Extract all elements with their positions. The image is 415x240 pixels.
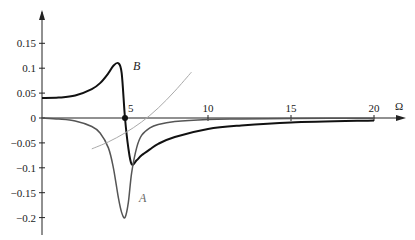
y-tick-label: −0.2 [16, 212, 36, 224]
axes: 0.150.10.050−0.05−0.1−0.15−0.25101520 [11, 10, 406, 235]
y-tick-label: 0.15 [17, 37, 37, 49]
series-a [42, 118, 374, 218]
y-tick-label: −0.15 [11, 187, 37, 199]
x-tick-label: 15 [286, 102, 298, 114]
x-axis-arrow-icon [396, 115, 406, 121]
curves [42, 63, 374, 218]
x-tick-label: 5 [128, 102, 134, 114]
y-axis-arrow-icon [39, 10, 45, 20]
y-tick-label: −0.1 [16, 162, 36, 174]
marker-point [122, 115, 128, 121]
y-tick-label: 0.05 [17, 87, 37, 99]
curve-label-a: A [138, 191, 147, 205]
y-tick-label: −0.05 [11, 137, 37, 149]
x-axis-label: Ω [395, 100, 403, 112]
curve-label-b: B [133, 59, 141, 73]
y-tick-label: 0.1 [22, 62, 36, 74]
x-tick-label: 10 [203, 102, 215, 114]
labels: ΩBA [133, 59, 403, 205]
x-tick-label: 20 [369, 102, 381, 114]
chart-canvas: 0.150.10.050−0.05−0.1−0.15−0.25101520 ΩB… [0, 0, 415, 240]
y-tick-label: 0 [31, 112, 37, 124]
